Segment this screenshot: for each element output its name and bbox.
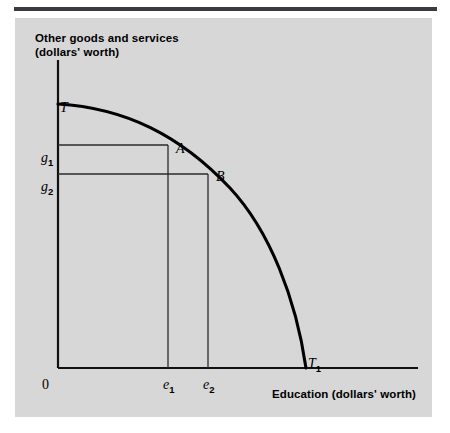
x-tick-label-e1: e1: [163, 376, 175, 395]
x-tick-label-e2-sub: 2: [209, 384, 214, 395]
y-tick-label-g2: g2: [41, 178, 53, 197]
x-tick-label-e1-sub: 1: [169, 384, 174, 395]
point-label-a: A: [176, 140, 185, 157]
y-axis-title-line1: Other goods and services: [35, 32, 179, 44]
curve-label-t1: T1: [308, 355, 321, 374]
y-tick-label-g1: g1: [41, 149, 53, 168]
chart-plot-area: [15, 18, 432, 417]
y-axis-title-line2: (dollars' worth): [35, 46, 119, 58]
y-tick-label-g1-sub: 1: [48, 157, 53, 168]
top-divider-rule: [14, 7, 437, 11]
x-axis-title: Education (dollars' worth): [272, 387, 416, 401]
x-tick-label-e2: e2: [203, 376, 215, 395]
y-tick-label-g2-base: g: [41, 179, 48, 194]
chart-panel: Other goods and services(dollars' worth)…: [15, 18, 432, 417]
point-label-b: B: [216, 168, 225, 185]
origin-label: 0: [42, 376, 49, 393]
y-tick-label-g1-base: g: [41, 150, 48, 165]
figure-root: Other goods and services(dollars' worth)…: [0, 0, 450, 433]
y-tick-label-g2-sub: 2: [48, 186, 53, 197]
curve-label-t1-sub: 1: [316, 363, 321, 374]
curve-label-t1-base: T: [308, 356, 316, 371]
curve-label-t: T: [60, 99, 68, 116]
y-axis-title: Other goods and services(dollars' worth): [35, 31, 179, 59]
